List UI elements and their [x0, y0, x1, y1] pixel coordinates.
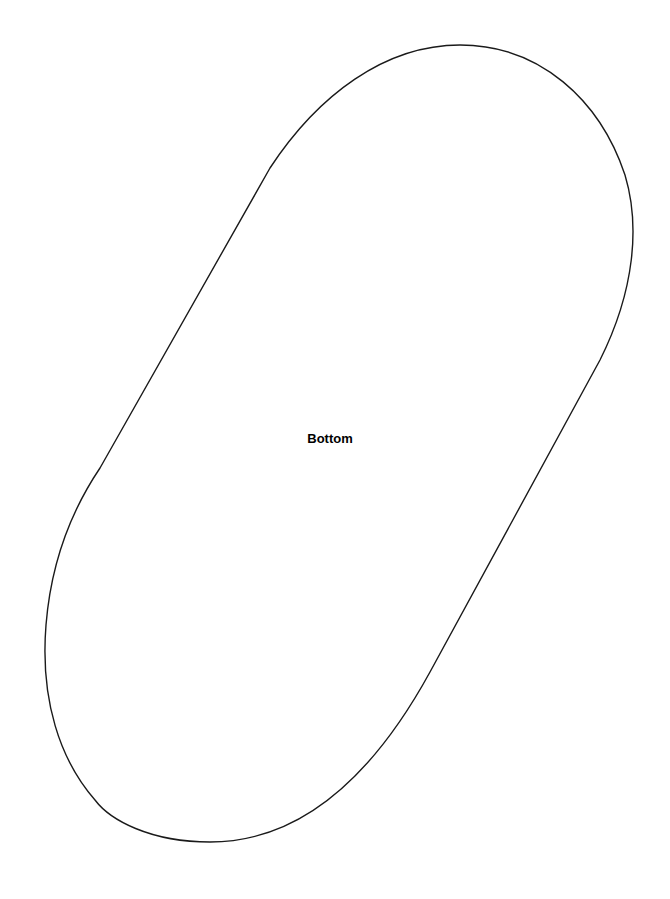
diagram-label-bottom: Bottom: [307, 431, 353, 446]
diagram-svg: [0, 0, 670, 899]
